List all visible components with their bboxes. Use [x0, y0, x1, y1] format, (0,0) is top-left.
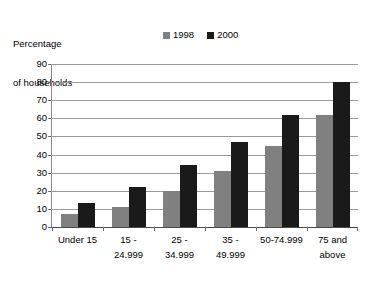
- x-tick-mark: [103, 227, 104, 231]
- chart-title-line-1: Percentage: [13, 37, 72, 50]
- bar-group: [103, 64, 154, 227]
- plot-area: [51, 64, 358, 227]
- x-label-line-2: 34.999: [154, 247, 205, 262]
- x-tick-mark: [52, 227, 53, 231]
- y-tick-mark: [48, 191, 51, 192]
- bar-group: [205, 64, 256, 227]
- x-axis-label-4: 35 -49.999: [205, 232, 256, 274]
- y-tick-mark: [48, 64, 51, 65]
- x-label-line-2: 49.999: [205, 247, 256, 262]
- bar-1998-6: [316, 115, 333, 227]
- y-tick-mark: [48, 173, 51, 174]
- y-tick-label: 20: [17, 186, 47, 196]
- x-axis-label-5: 50-74.999: [256, 232, 307, 274]
- x-axis-label-1: Under 15: [52, 232, 103, 274]
- legend-swatch-2000: [207, 32, 214, 39]
- bar-2000-6: [333, 82, 350, 227]
- legend-swatch-1998: [163, 32, 170, 39]
- y-tick-label: 70: [17, 95, 47, 105]
- bar-1998-3: [163, 191, 180, 227]
- bar-1998-4: [214, 171, 231, 227]
- y-tick-label: 40: [17, 150, 47, 160]
- chart-legend: 1998 2000: [163, 30, 238, 40]
- y-tick-mark: [48, 82, 51, 83]
- bar-2000-2: [129, 187, 146, 227]
- bar-group: [52, 64, 103, 227]
- y-tick-mark: [48, 209, 51, 210]
- bar-2000-5: [282, 115, 299, 227]
- bar-1998-2: [112, 207, 129, 227]
- legend-label-1998: 1998: [173, 30, 194, 40]
- y-tick-mark: [48, 155, 51, 156]
- y-tick-label: 80: [17, 77, 47, 87]
- x-label-line-1: 35 -: [205, 232, 256, 247]
- x-label-line-1: 75 and: [307, 232, 358, 247]
- legend-item-2000: 2000: [207, 30, 238, 40]
- bar-2000-1: [78, 203, 95, 227]
- x-tick-mark: [256, 227, 257, 231]
- y-tick-mark: [48, 100, 51, 101]
- y-tick-label: 60: [17, 113, 47, 123]
- x-axis-label-2: 15 -24.999: [103, 232, 154, 274]
- x-label-line-1: Under 15: [52, 232, 103, 247]
- x-label-line-1: 50-74.999: [256, 232, 307, 247]
- x-axis-label-6: 75 andabove: [307, 232, 358, 274]
- x-tick-mark: [357, 227, 358, 231]
- bar-2000-4: [231, 142, 248, 227]
- x-tick-mark: [307, 227, 308, 231]
- x-axis-label-3: 25 -34.999: [154, 232, 205, 274]
- y-tick-label: 10: [17, 204, 47, 214]
- bar-1998-1: [61, 214, 78, 227]
- y-tick-label: 50: [17, 131, 47, 141]
- x-label-line-2: above: [307, 247, 358, 262]
- bar-groups: [52, 64, 358, 227]
- y-tick-mark: [48, 118, 51, 119]
- x-axis-labels: Under 1515 -24.99925 -34.99935 -49.99950…: [52, 232, 358, 274]
- x-label-line-2: 24.999: [103, 247, 154, 262]
- x-tick-mark: [154, 227, 155, 231]
- bar-group: [307, 64, 358, 227]
- bar-2000-3: [180, 165, 197, 227]
- y-tick-label: 90: [17, 59, 47, 69]
- bar-group: [256, 64, 307, 227]
- bar-1998-5: [265, 146, 282, 228]
- y-tick-label: 30: [17, 168, 47, 178]
- legend-item-1998: 1998: [163, 30, 194, 40]
- bar-group: [154, 64, 205, 227]
- bar-chart: Percentage of households 1998 2000 01020…: [0, 0, 373, 282]
- legend-label-2000: 2000: [217, 30, 238, 40]
- x-label-line-1: 25 -: [154, 232, 205, 247]
- x-label-line-1: 15 -: [103, 232, 154, 247]
- y-tick-mark: [48, 136, 51, 137]
- y-tick-label: 0: [17, 222, 47, 232]
- x-tick-mark: [205, 227, 206, 231]
